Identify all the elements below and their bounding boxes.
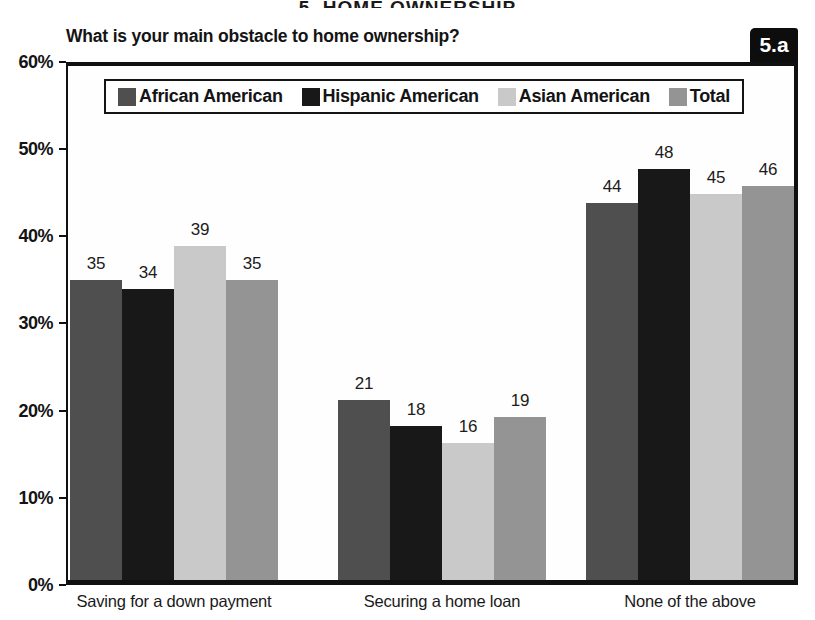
- chart-title: What is your main obstacle to home owner…: [66, 26, 460, 47]
- bar-hispanic-american-none-of-the-above: [638, 169, 690, 580]
- legend-item-hispanic-american: Hispanic American: [302, 86, 479, 107]
- legend: African AmericanHispanic AmericanAsian A…: [104, 79, 744, 114]
- bar-african-american-securing-a-home-loan: [338, 400, 390, 580]
- section-heading-text: 5. HOME OWNERSHIP: [299, 0, 517, 8]
- legend-label: Asian American: [519, 86, 650, 107]
- y-tick-label: 50%: [18, 139, 53, 159]
- bar-value-label: 34: [122, 263, 174, 283]
- bar-value-label: 44: [586, 177, 638, 197]
- y-tick-mark: [59, 497, 66, 499]
- legend-item-asian-american: Asian American: [498, 86, 650, 107]
- y-tick-mark: [59, 61, 66, 63]
- bar-hispanic-american-securing-a-home-loan: [390, 426, 442, 580]
- bar-value-label: 21: [338, 374, 390, 394]
- x-category-label-securing-a-home-loan: Securing a home loan: [364, 592, 521, 611]
- legend-swatch-icon: [302, 88, 320, 106]
- bar-value-label: 35: [226, 254, 278, 274]
- bar-hispanic-american-saving-for-a-down-payment: [122, 289, 174, 580]
- bar-total-securing-a-home-loan: [494, 417, 546, 580]
- bar-asian-american-none-of-the-above: [690, 194, 742, 580]
- y-tick-label: 60%: [18, 52, 53, 72]
- x-category-label-none-of-the-above: None of the above: [624, 592, 755, 611]
- bar-value-label: 46: [742, 160, 794, 180]
- legend-swatch-icon: [669, 88, 687, 106]
- y-tick-label: 10%: [18, 488, 53, 508]
- bar-african-american-none-of-the-above: [586, 203, 638, 580]
- bar-value-label: 16: [442, 417, 494, 437]
- x-axis: Saving for a down paymentSecuring a home…: [0, 592, 815, 616]
- cropped-section-heading: 5. HOME OWNERSHIP: [0, 0, 815, 8]
- legend-label: Total: [690, 86, 730, 107]
- y-tick-label: 40%: [18, 226, 53, 246]
- bar-total-none-of-the-above: [742, 186, 794, 580]
- bar-asian-american-saving-for-a-down-payment: [174, 246, 226, 580]
- bars-layer: 353439352118161944484546: [68, 66, 794, 580]
- figure-number-badge: 5.a: [750, 28, 798, 62]
- y-tick-label: 20%: [18, 401, 53, 421]
- legend-swatch-icon: [498, 88, 516, 106]
- legend-label: Hispanic American: [323, 86, 479, 107]
- legend-swatch-icon: [118, 88, 136, 106]
- y-tick-mark: [59, 148, 66, 150]
- y-axis: 0%10%20%30%40%50%60%: [0, 62, 66, 585]
- plot-area: African AmericanHispanic AmericanAsian A…: [66, 62, 798, 585]
- bar-asian-american-securing-a-home-loan: [442, 443, 494, 580]
- y-tick-mark: [59, 235, 66, 237]
- bar-value-label: 48: [638, 143, 690, 163]
- y-tick-label: 30%: [18, 313, 53, 333]
- bar-value-label: 18: [390, 400, 442, 420]
- y-tick-mark: [59, 322, 66, 324]
- y-tick-mark: [59, 584, 66, 586]
- legend-label: African American: [139, 86, 283, 107]
- legend-item-total: Total: [669, 86, 730, 107]
- bar-total-saving-for-a-down-payment: [226, 280, 278, 580]
- bar-value-label: 39: [174, 220, 226, 240]
- legend-item-african-american: African American: [118, 86, 283, 107]
- bar-value-label: 19: [494, 391, 546, 411]
- bar-african-american-saving-for-a-down-payment: [70, 280, 122, 580]
- y-tick-mark: [59, 410, 66, 412]
- bar-value-label: 45: [690, 168, 742, 188]
- bar-value-label: 35: [70, 254, 122, 274]
- x-category-label-saving-for-a-down-payment: Saving for a down payment: [77, 592, 272, 611]
